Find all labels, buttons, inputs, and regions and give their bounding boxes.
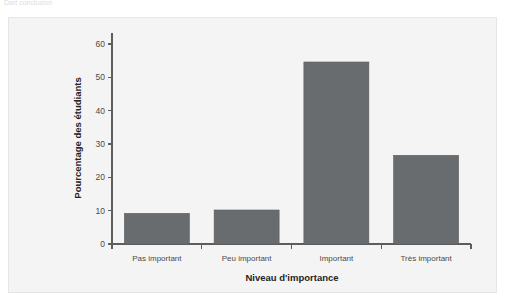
bar	[304, 62, 369, 244]
chart-panel: 0102030405060 Pas importantPeu important…	[8, 17, 497, 293]
y-tick-label: 50	[96, 72, 106, 82]
bar	[124, 213, 189, 244]
x-category-label: Peu important	[222, 254, 273, 263]
x-axis-title: Niveau d'importance	[245, 272, 338, 283]
bar-chart: 0102030405060 Pas importantPeu important…	[9, 18, 498, 294]
y-tick-label: 10	[96, 206, 106, 216]
x-category-label: Important	[319, 254, 354, 263]
bar	[214, 210, 279, 244]
x-axis-category-labels: Pas importantPeu importantImportantTrès …	[132, 254, 452, 263]
y-tick-label: 40	[96, 106, 106, 116]
x-axis-ticks	[112, 244, 471, 249]
y-tick-label: 20	[96, 172, 106, 182]
bar-group	[124, 62, 458, 244]
clipped-header-text: Dart conclusion	[4, 0, 204, 7]
y-axis-title: Pourcentage des étudiants	[72, 77, 83, 198]
y-tick-label: 30	[96, 139, 106, 149]
bar	[394, 155, 459, 244]
y-axis-ticks: 0102030405060	[96, 39, 112, 249]
x-category-label: Pas important	[132, 254, 182, 263]
y-tick-label: 0	[100, 239, 105, 249]
x-category-label: Très important	[400, 254, 452, 263]
y-tick-label: 60	[96, 39, 106, 49]
